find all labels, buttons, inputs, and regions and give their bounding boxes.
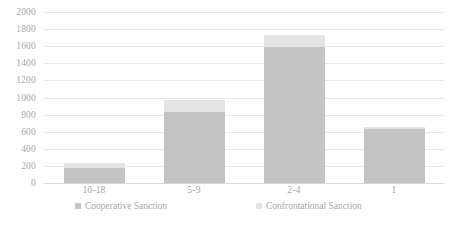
gridline [44,98,444,99]
legend-swatch-icon [256,203,262,209]
gridline [44,63,444,64]
bar-segment[interactable] [364,129,425,183]
bar-segment[interactable] [164,112,225,183]
gridline [44,115,444,116]
x-axis-tick-label: 10-18 [44,185,144,195]
y-axis: 2000180016001400120010008006004002000 [0,12,40,183]
gridline [44,29,444,30]
bar-segment[interactable] [264,47,325,183]
y-axis-tick-label: 1400 [16,58,36,68]
plot-area [44,12,444,183]
legend-label: Cooperative Sanction [85,201,167,211]
y-axis-tick-label: 200 [21,161,36,171]
legend-item[interactable]: Confrontational Sanction [256,201,362,211]
y-axis-tick-label: 0 [31,178,36,188]
gridline [44,80,444,81]
bar-segment[interactable] [64,168,125,183]
legend-item[interactable]: Cooperative Sanction [75,201,167,211]
y-axis-tick-label: 1000 [16,93,36,103]
y-axis-tick-label: 800 [21,110,36,120]
legend-swatch-icon [75,203,81,209]
x-axis-tick-label: 5-9 [144,185,244,195]
gridline [44,46,444,47]
bar-segment[interactable] [64,163,125,168]
x-axis: 10-185-92-41 [44,185,444,199]
y-axis-tick-label: 1200 [16,75,36,85]
y-axis-tick-label: 400 [21,144,36,154]
axis-baseline [44,183,444,184]
x-axis-tick-label: 2-4 [244,185,344,195]
y-axis-tick-label: 2000 [16,7,36,17]
x-axis-tick-label: 1 [344,185,444,195]
legend-label: Confrontational Sanction [266,201,362,211]
bar-segment[interactable] [364,127,425,129]
bar-segment[interactable] [164,100,225,112]
bar-segment[interactable] [264,35,325,47]
gridline [44,12,444,13]
stacked-bar-chart: 2000180016001400120010008006004002000 10… [0,0,452,230]
chart-legend: Cooperative SanctionConfrontational Sanc… [44,201,444,217]
y-axis-tick-label: 600 [21,127,36,137]
y-axis-tick-label: 1600 [16,41,36,51]
y-axis-tick-label: 1800 [16,24,36,34]
